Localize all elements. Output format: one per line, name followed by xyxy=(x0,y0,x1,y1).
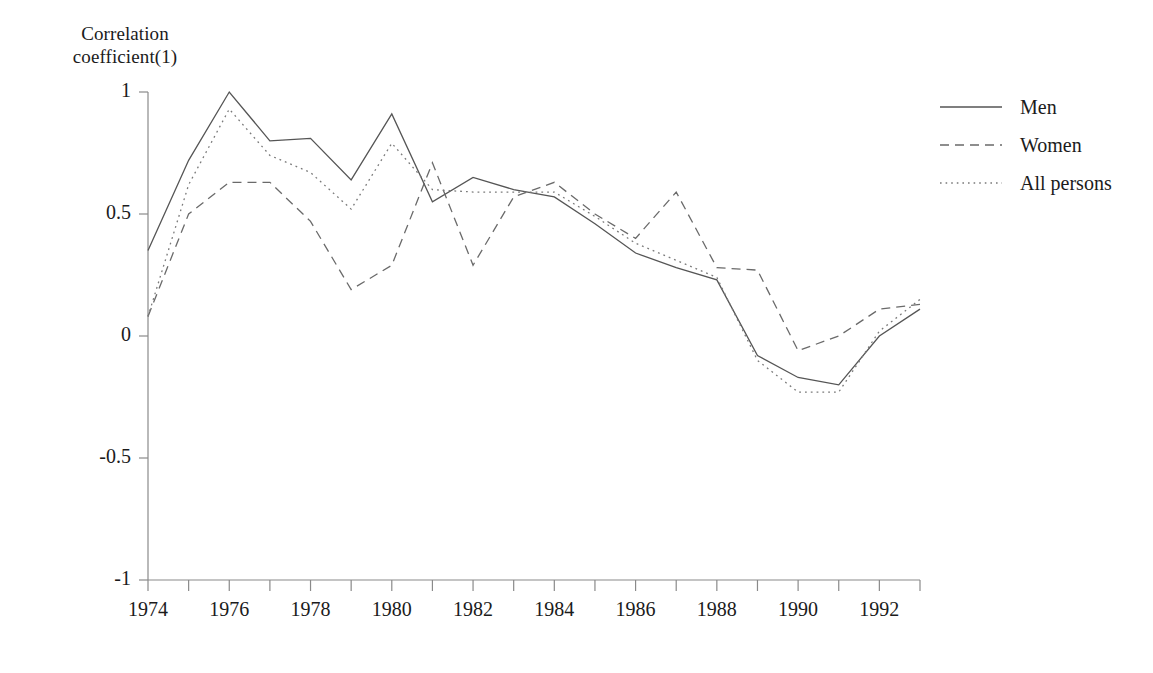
data-series-layer xyxy=(148,92,920,392)
x-axis-tick-label: 1980 xyxy=(357,598,427,621)
series-line-women xyxy=(148,163,920,351)
x-axis-tick-label: 1984 xyxy=(519,598,589,621)
y-axis-tick-label: 1 xyxy=(71,79,131,102)
axes xyxy=(148,92,920,580)
x-axis-tick-label: 1992 xyxy=(844,598,914,621)
x-axis-ticks xyxy=(148,580,920,591)
correlation-coefficient-line-chart: Correlation coefficient(1) 10.50-0.5-1 1… xyxy=(0,0,1153,673)
x-axis-tick-label: 1990 xyxy=(763,598,833,621)
legend-item-all-persons[interactable]: All persons xyxy=(940,164,1150,202)
series-line-men xyxy=(148,92,920,385)
y-axis-ticks xyxy=(139,92,148,580)
y-axis-tick-label: 0.5 xyxy=(71,201,131,224)
legend-swatch-solid xyxy=(940,101,1002,113)
x-axis-tick-label: 1974 xyxy=(113,598,183,621)
y-axis-tick-label: -0.5 xyxy=(71,445,131,468)
y-axis-tick-label: 0 xyxy=(71,323,131,346)
x-axis-tick-label: 1986 xyxy=(601,598,671,621)
legend-label-all-persons: All persons xyxy=(1020,172,1112,195)
legend-item-women[interactable]: Women xyxy=(940,126,1150,164)
legend-label-men: Men xyxy=(1020,96,1057,119)
legend-item-men[interactable]: Men xyxy=(940,88,1150,126)
x-axis-tick-label: 1982 xyxy=(438,598,508,621)
y-axis-tick-label: -1 xyxy=(71,567,131,590)
x-axis-tick-label: 1976 xyxy=(194,598,264,621)
legend-swatch-dotted xyxy=(940,177,1002,189)
x-axis-tick-label: 1988 xyxy=(682,598,752,621)
chart-legend: Men Women All persons xyxy=(940,88,1150,202)
legend-label-women: Women xyxy=(1020,134,1082,157)
series-line-all-persons xyxy=(148,109,920,392)
legend-swatch-dashed xyxy=(940,139,1002,151)
x-axis-tick-label: 1978 xyxy=(276,598,346,621)
